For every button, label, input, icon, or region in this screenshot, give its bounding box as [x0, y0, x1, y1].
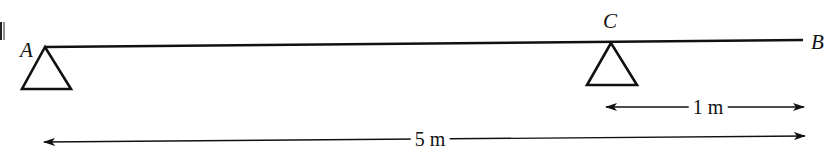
- dimension-5m-label: 5 m: [411, 129, 450, 149]
- beam-line: [45, 40, 803, 47]
- support-c-triangle: [587, 43, 637, 85]
- clipped-glyph: [1, 22, 4, 40]
- dimension-1m-label: 1 m: [689, 97, 728, 117]
- point-label-b: B: [811, 30, 824, 55]
- point-label-a: A: [20, 38, 33, 63]
- point-label-c: C: [603, 9, 617, 34]
- beam-diagram: A C B 1 m 5 m: [0, 0, 829, 166]
